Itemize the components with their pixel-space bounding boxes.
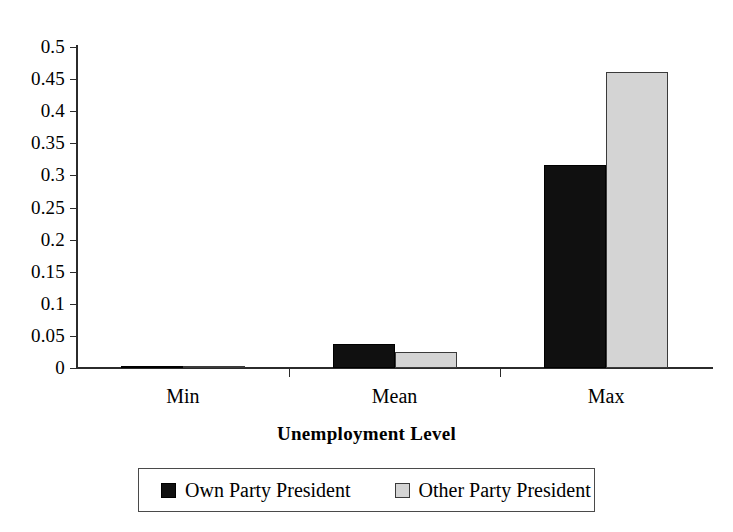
bar-chart: 00.050.10.150.20.250.30.350.40.450.5 Min…: [0, 0, 733, 532]
y-axis-tick-label: 0.2: [5, 230, 65, 249]
y-axis-tick-label: 0.4: [5, 101, 65, 120]
x-axis-label-min: Min: [103, 385, 263, 407]
legend-item-own-party-president: Own Party President: [161, 479, 351, 501]
bar-min-own-party-president: [121, 366, 183, 368]
x-axis-tick: [500, 369, 501, 377]
y-axis-tick-label: 0.5: [5, 37, 65, 56]
y-axis-tick-label: 0.45: [5, 69, 65, 88]
chart-legend: Own Party PresidentOther Party President: [138, 468, 595, 512]
bar-mean-own-party-president: [333, 344, 395, 368]
x-axis-title: Unemployment Level: [0, 423, 733, 445]
bar-max-own-party-president: [544, 165, 606, 369]
legend-swatch-icon: [395, 483, 410, 498]
x-axis-tick: [289, 369, 290, 377]
y-axis-tick-label: 0.35: [5, 133, 65, 152]
y-axis-tick-label: 0.1: [5, 294, 65, 313]
legend-label: Other Party President: [419, 479, 591, 501]
bar-mean-other-party-president: [395, 352, 457, 368]
legend-label: Own Party President: [185, 479, 351, 501]
legend-swatch-icon: [161, 483, 176, 498]
x-axis-label-max: Max: [526, 385, 686, 407]
bar-max-other-party-president: [606, 72, 668, 368]
bar-min-other-party-president: [183, 366, 245, 368]
y-axis-tick-label: 0.15: [5, 262, 65, 281]
y-axis-tick-label: 0.05: [5, 326, 65, 345]
x-axis-label-mean: Mean: [315, 385, 475, 407]
y-axis-tick-label: 0.25: [5, 198, 65, 217]
plot-area: [77, 47, 712, 368]
y-axis-tick-label: 0.3: [5, 165, 65, 184]
y-axis-tick-label: 0: [5, 358, 65, 377]
legend-item-other-party-president: Other Party President: [395, 479, 591, 501]
